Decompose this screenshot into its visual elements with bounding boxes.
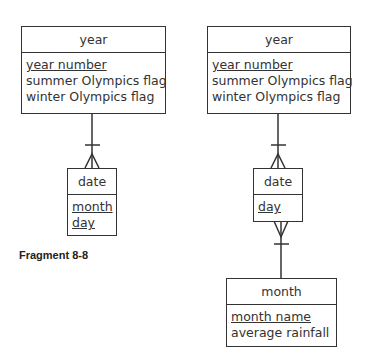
right-month-entity: month month name average rainfall [226,278,337,347]
entity-name: date [68,169,116,195]
attribute-key: month [72,199,112,215]
left-date-entity: date month day [67,168,117,236]
attribute-key: day [258,199,298,215]
attribute-list: day [254,195,302,219]
attribute-key: year number [212,57,346,73]
attribute-list: year number summer Olympics flag winter … [208,53,350,109]
right-year-entity: year year number summer Olympics flag wi… [207,26,351,114]
attribute: summer Olympics flag [26,73,161,89]
attribute-list: month name average rainfall [227,305,336,345]
attribute-key: month name [231,309,332,325]
attribute: average rainfall [231,325,332,341]
attribute-list: year number summer Olympics flag winter … [22,53,165,109]
attribute-key: day [72,215,112,231]
left-year-entity: year year number summer Olympics flag wi… [21,26,166,114]
entity-name: date [254,169,302,195]
entity-name: year [22,27,165,53]
attribute-key: year number [26,57,161,73]
entity-name: month [227,279,336,305]
right-date-entity: date day [253,168,303,222]
attribute: winter Olympics flag [26,89,161,105]
figure-caption: Fragment 8-8 [19,249,88,261]
attribute-list: month day [68,195,116,235]
entity-name: year [208,27,350,53]
attribute: winter Olympics flag [212,89,346,105]
attribute: summer Olympics flag [212,73,346,89]
